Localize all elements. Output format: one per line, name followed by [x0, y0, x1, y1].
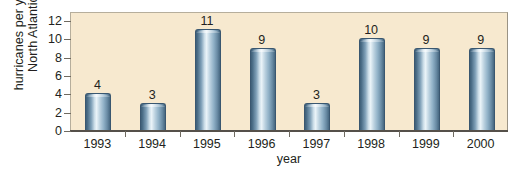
bar[interactable] — [414, 48, 440, 130]
y-axis-tick-mark — [64, 113, 71, 114]
bar-value-label: 9 — [406, 34, 446, 47]
bar-value-label: 9 — [242, 34, 282, 47]
y-axis-tick-mark — [64, 58, 71, 59]
bar-value-label: 9 — [461, 34, 501, 47]
bar[interactable] — [304, 103, 330, 130]
bar[interactable] — [250, 48, 276, 130]
bar[interactable] — [195, 29, 221, 130]
bar-group — [290, 13, 345, 130]
bar[interactable] — [85, 93, 111, 130]
bar-group — [400, 13, 455, 130]
x-axis-tick-label: 1995 — [177, 137, 237, 151]
bar-group — [181, 13, 236, 130]
y-axis-tick-label: 6 — [38, 70, 62, 82]
y-axis-tick-label: 8 — [38, 52, 62, 64]
hurricane-bar-chart: hurricanes per year, North Atlantic 0246… — [0, 0, 526, 171]
bar-value-label: 3 — [296, 89, 336, 102]
y-axis-tick-label: 12 — [38, 15, 62, 27]
x-axis-tick-label: 2000 — [451, 137, 511, 151]
y-axis-tick-labels: 024681012 — [38, 12, 62, 131]
x-axis-tick-label: 1994 — [122, 137, 182, 151]
bar[interactable] — [140, 103, 166, 130]
y-axis-tick-mark — [64, 76, 71, 77]
y-axis-tick-mark — [64, 94, 71, 95]
x-axis-tick-label: 1999 — [396, 137, 456, 151]
y-axis-tick-label: 0 — [38, 125, 62, 137]
x-axis-title: year — [249, 152, 329, 166]
bar-group — [235, 13, 290, 130]
y-axis-tick-label: 10 — [38, 33, 62, 45]
bar-value-label: 3 — [132, 89, 172, 102]
y-axis-tick-label: 4 — [38, 88, 62, 100]
x-axis-tick-label: 1998 — [341, 137, 401, 151]
y-axis-title-line-1: hurricanes per year, — [12, 0, 26, 90]
y-axis-tick-mark — [64, 131, 71, 132]
y-axis-tick-mark — [64, 21, 71, 22]
bar-value-label: 11 — [187, 15, 227, 28]
bar[interactable] — [359, 38, 385, 130]
x-axis-tick-label: 1997 — [286, 137, 346, 151]
bar[interactable] — [469, 48, 495, 130]
x-axis-tick-label: 1996 — [232, 137, 292, 151]
plot-area — [70, 12, 508, 131]
bar-group — [454, 13, 509, 130]
plot-inner — [71, 13, 507, 130]
bar-group — [71, 13, 126, 130]
y-axis-tick-label: 2 — [38, 107, 62, 119]
bar-value-label: 10 — [351, 24, 391, 37]
bar-group — [126, 13, 181, 130]
y-axis-tick-mark — [64, 39, 71, 40]
x-axis-tick-label: 1993 — [67, 137, 127, 151]
bar-value-label: 4 — [77, 79, 117, 92]
